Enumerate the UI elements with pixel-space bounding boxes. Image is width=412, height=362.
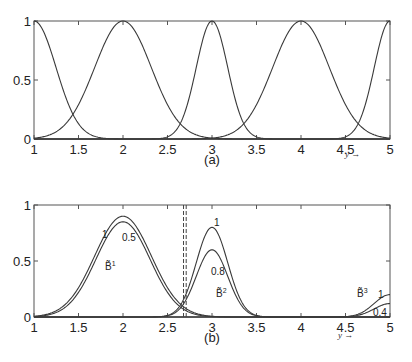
plot-a-xtick-label: 2.5 (158, 142, 176, 157)
b2-name: B̃2 (216, 287, 227, 299)
plot-b-xtick-label: 1.5 (69, 320, 87, 335)
figure: 11.522.533.544.5500.51 (a) y → 11.522.53… (0, 0, 412, 362)
plot-a-xtick-label: 3.5 (247, 142, 265, 157)
plot-b-ytick-label: 0 (24, 310, 31, 325)
plot-a-ytick-label: 1 (24, 14, 31, 29)
plot-a-curve (34, 21, 390, 139)
x-axis-label-a: y → (344, 149, 360, 159)
plot-a-ytick-label: 0.5 (13, 73, 31, 88)
caption-a: (a) (204, 152, 220, 167)
plot-b-curve (34, 250, 390, 317)
plot-a-xtick-label: 1.5 (69, 142, 87, 157)
plot-a-curve (34, 21, 390, 139)
plot-a-xtick-label: 5 (386, 142, 393, 157)
plot-b-frame (34, 205, 390, 317)
b3-name: B̃3 (357, 287, 368, 299)
x-axis-label-b: y → (337, 330, 353, 340)
plot-a-xtick-label: 2 (119, 142, 126, 157)
plot-b-xtick-label: 4 (297, 320, 304, 335)
plot-a: 11.522.533.544.5500.51 (a) y → (13, 14, 394, 167)
plot-a-curve (34, 21, 390, 139)
plot-b-ytick-label: 1 (24, 198, 31, 213)
b1-label-hi: 1 (102, 229, 108, 240)
plot-b-ytick-label: 0.5 (13, 254, 31, 269)
plot-a-curve (34, 21, 390, 139)
b1-name: B̃1 (105, 260, 116, 272)
b2-label-lo: 0.8 (211, 266, 225, 277)
plot-b: 11.522.533.544.5500.51 1 0.5 B̃1 1 0.8 B… (13, 198, 394, 345)
b3-label-lo: 0.4 (373, 307, 387, 318)
plot-b-xtick-label: 2 (119, 320, 126, 335)
b2-label-hi: 1 (214, 217, 220, 228)
plot-b-xtick-label: 2.5 (158, 320, 176, 335)
b3-label-hi: 1 (378, 289, 384, 300)
plot-b-xtick-label: 5 (386, 320, 393, 335)
plot-a-ytick-label: 0 (24, 132, 31, 147)
b1-label-lo: 0.5 (122, 232, 136, 243)
plot-a-curve (34, 21, 390, 139)
plot-a-xtick-label: 4 (297, 142, 304, 157)
plot-a-frame (34, 21, 390, 139)
caption-b: (b) (204, 330, 220, 345)
plot-a-xtick-label: 1 (30, 142, 37, 157)
plot-b-xtick-label: 3.5 (247, 320, 265, 335)
plot-b-xtick-label: 1 (30, 320, 37, 335)
